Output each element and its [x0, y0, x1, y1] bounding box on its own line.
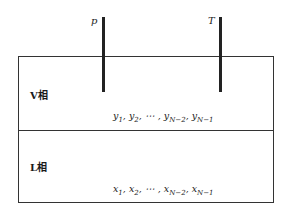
pressure-label: p	[91, 15, 97, 26]
vapor-composition: y1, y2, ⋯ , yN−2, yN−1	[113, 110, 214, 124]
temperature-rod	[219, 17, 222, 92]
pressure-rod	[102, 17, 105, 92]
vapor-phase-label: V相	[30, 87, 48, 102]
phase-divider	[18, 130, 274, 131]
temperature-label: T	[208, 15, 215, 26]
liquid-phase-label: L相	[30, 159, 47, 174]
liquid-composition: x1, x2, ⋯ , xN−2, xN−1	[113, 183, 213, 197]
